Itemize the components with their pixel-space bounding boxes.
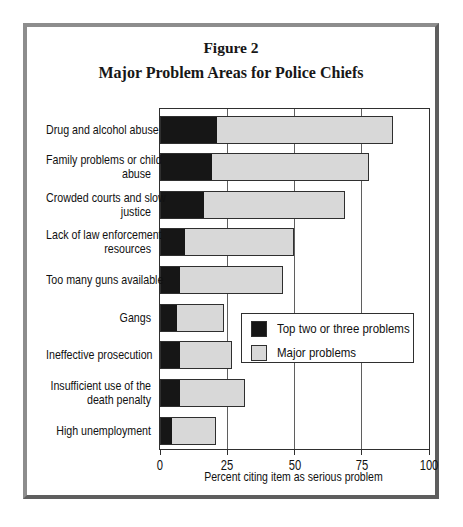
category-label-line: High unemployment: [46, 424, 151, 438]
category-label-line: Family problems or child: [46, 153, 151, 167]
category-label-line: Drug and alcohol abuse: [46, 123, 151, 137]
plot-area: Top two or three problems Major problems…: [159, 108, 430, 450]
legend-swatch-gray: [251, 345, 267, 361]
category-label-line: Insufficient use of the: [46, 379, 151, 393]
category-label-line: death penalty: [46, 393, 151, 407]
category-label: Drug and alcohol abuse: [23, 123, 151, 137]
x-axis-tick-0: [160, 449, 161, 455]
x-axis-tick-100: [429, 449, 430, 455]
category-label: Family problems or childabuse: [23, 153, 151, 181]
bar-segment-major-problems: [180, 342, 231, 368]
figure-title: Major Problem Areas for Police Chiefs: [23, 64, 439, 82]
bar-segment-major-problems: [217, 117, 392, 143]
legend-label: Major problems: [277, 345, 356, 360]
bar-segment-major-problems: [204, 192, 344, 218]
category-label-line: justice: [46, 205, 151, 219]
bar-row: [160, 417, 216, 445]
category-label-line: Too many guns available: [46, 273, 151, 287]
bar-segment-top-problems: [161, 192, 204, 218]
bar-row: [160, 228, 294, 256]
bar-segment-major-problems: [185, 229, 293, 255]
bar-row: [160, 153, 369, 181]
category-label: Gangs: [23, 311, 151, 325]
bar-segment-major-problems: [212, 154, 368, 180]
x-axis-title-text: Percent citing item as serious problem: [204, 469, 383, 484]
bar-row: [160, 266, 283, 294]
legend-label: Top two or three problems: [277, 321, 410, 336]
bar-segment-top-problems: [161, 154, 212, 180]
legend-swatch-black: [251, 321, 267, 337]
bar-row: [160, 341, 232, 369]
bar-segment-major-problems: [180, 267, 282, 293]
category-label-line: Gangs: [46, 311, 151, 325]
bar-segment-top-problems: [161, 305, 177, 331]
category-label: Lack of law enforcementresources: [23, 228, 151, 256]
x-axis-tick-25: [227, 449, 228, 455]
bar-segment-top-problems: [161, 380, 180, 406]
bar-segment-top-problems: [161, 117, 217, 143]
category-label-line: Ineffective prosecution: [46, 348, 151, 362]
x-axis-tick-50: [294, 449, 295, 455]
bar-segment-top-problems: [161, 418, 172, 444]
bar-row: [160, 116, 393, 144]
category-label: Crowded courts and slowjustice: [23, 191, 151, 219]
category-label-line: Lack of law enforcement: [46, 228, 151, 242]
bar-segment-major-problems: [177, 305, 223, 331]
bar-segment-top-problems: [161, 342, 180, 368]
bar-segment-major-problems: [180, 380, 245, 406]
category-label: Ineffective prosecution: [23, 348, 151, 362]
category-label-line: Crowded courts and slow: [46, 191, 151, 205]
bar-row: [160, 191, 345, 219]
legend: Top two or three problems Major problems: [241, 313, 414, 363]
figure-canvas: Figure 2 Major Problem Areas for Police …: [0, 0, 463, 527]
x-axis-title: Percent citing item as serious problem: [159, 469, 428, 484]
figure-number: Figure 2: [23, 39, 439, 57]
bar-segment-major-problems: [172, 418, 215, 444]
category-label: High unemployment: [23, 424, 151, 438]
category-label: Too many guns available: [23, 273, 151, 287]
bar-row: [160, 379, 245, 407]
bar-row: [160, 304, 224, 332]
category-label: Insufficient use of thedeath penalty: [23, 379, 151, 407]
bar-segment-top-problems: [161, 267, 180, 293]
category-label-line: abuse: [46, 167, 151, 181]
category-label-line: resources: [46, 242, 151, 256]
legend-entry-major-problems: Major problems: [251, 343, 413, 362]
legend-entry-top-problems: Top two or three problems: [251, 319, 413, 338]
x-axis-tick-75: [361, 449, 362, 455]
bar-segment-top-problems: [161, 229, 185, 255]
